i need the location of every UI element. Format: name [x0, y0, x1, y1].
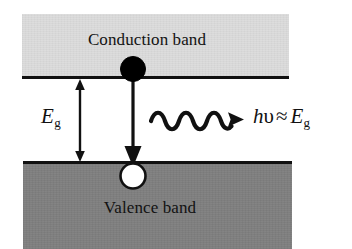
photon-energy-symbol-subscript: g: [303, 115, 310, 130]
band-gap-diagram: Conduction band Valence band Eg hυ≈Eg: [0, 0, 352, 249]
planck-constant-symbol: h: [253, 104, 264, 128]
hole-icon: [121, 164, 146, 189]
band-gap-symbol-subscript: g: [54, 115, 61, 130]
photon-wave-path: [151, 113, 232, 130]
electron-icon: [121, 57, 146, 82]
band-gap-arrow: [75, 79, 85, 162]
band-gap-symbol: Eg: [41, 104, 61, 131]
approx-equal-operator: ≈: [274, 104, 291, 128]
photon-energy-relation: hυ≈Eg: [253, 104, 310, 131]
band-gap-arrow-head-up: [75, 79, 85, 90]
band-gap-arrow-head-down: [75, 151, 85, 162]
photon-wavy-arrow-icon: [151, 112, 244, 129]
photon-energy-symbol-base: E: [290, 104, 303, 128]
band-gap-symbol-base: E: [41, 104, 54, 128]
photon-arrow-head: [228, 112, 244, 127]
frequency-symbol: υ: [264, 104, 274, 128]
transition-arrow: [125, 68, 142, 167]
